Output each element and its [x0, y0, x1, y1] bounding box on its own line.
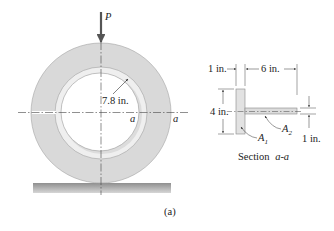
ground-support	[33, 183, 171, 193]
section-view: 1 in. 6 in. 4 in. 1 in. A1 A2 Section a-…	[208, 63, 321, 162]
ring-view: P 7.8 in. a a	[18, 11, 190, 195]
ring-hole	[61, 73, 139, 151]
area-label-a2: A2	[281, 123, 292, 137]
section-title: Section a-a	[238, 151, 289, 162]
diagram-canvas: P 7.8 in. a a 1 in. 6 in. 4 in.	[0, 0, 334, 231]
section-mark-left: a	[130, 113, 135, 124]
figure-caption: (a)	[164, 206, 176, 218]
dim-label-flange-height: 4 in.	[210, 106, 229, 117]
area-label-a1: A1	[257, 132, 268, 146]
leader-a2	[265, 116, 281, 129]
dim-label-web-length: 6 in.	[261, 63, 280, 74]
section-mark-right: a	[173, 113, 178, 124]
dim-label-web-thickness: 1 in.	[302, 133, 321, 144]
web-a2	[245, 108, 297, 114]
radius-label: 7.8 in.	[102, 95, 129, 106]
load-label: P	[104, 11, 112, 22]
dim-label-flange-width: 1 in.	[208, 63, 227, 74]
